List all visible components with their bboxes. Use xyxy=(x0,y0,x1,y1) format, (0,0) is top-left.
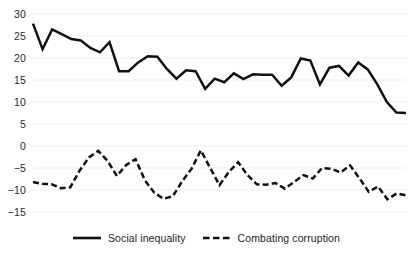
y-axis-tick-label: 15 xyxy=(0,75,26,85)
legend-label-social-inequality: Social inequality xyxy=(108,232,186,244)
legend-item-combating-corruption[interactable]: Combating corruption xyxy=(202,232,340,244)
line-chart: −15−10−5051015202530 Social inequality C… xyxy=(0,0,412,254)
gridlines xyxy=(33,14,406,212)
legend-item-social-inequality[interactable]: Social inequality xyxy=(72,232,186,244)
y-axis-tick-label: −5 xyxy=(0,163,26,173)
chart-plot-area xyxy=(0,0,412,254)
y-axis-tick-label: 10 xyxy=(0,97,26,107)
y-axis-tick-label: 5 xyxy=(0,119,26,129)
y-axis-tick-label: 25 xyxy=(0,31,26,41)
chart-legend: Social inequality Combating corruption xyxy=(0,232,412,244)
series-line-social-inequality xyxy=(33,24,406,113)
legend-swatch-solid xyxy=(72,233,102,243)
y-axis-tick-label: −15 xyxy=(0,207,26,217)
legend-label-combating-corruption: Combating corruption xyxy=(238,232,340,244)
legend-swatch-dashed xyxy=(202,233,232,243)
y-axis-tick-label: 20 xyxy=(0,53,26,63)
series-line-combating-corruption xyxy=(33,150,406,199)
y-axis-tick-label: 30 xyxy=(0,9,26,19)
y-axis-tick-label: 0 xyxy=(0,141,26,151)
y-axis-tick-label: −10 xyxy=(0,185,26,195)
series-lines xyxy=(33,24,406,200)
